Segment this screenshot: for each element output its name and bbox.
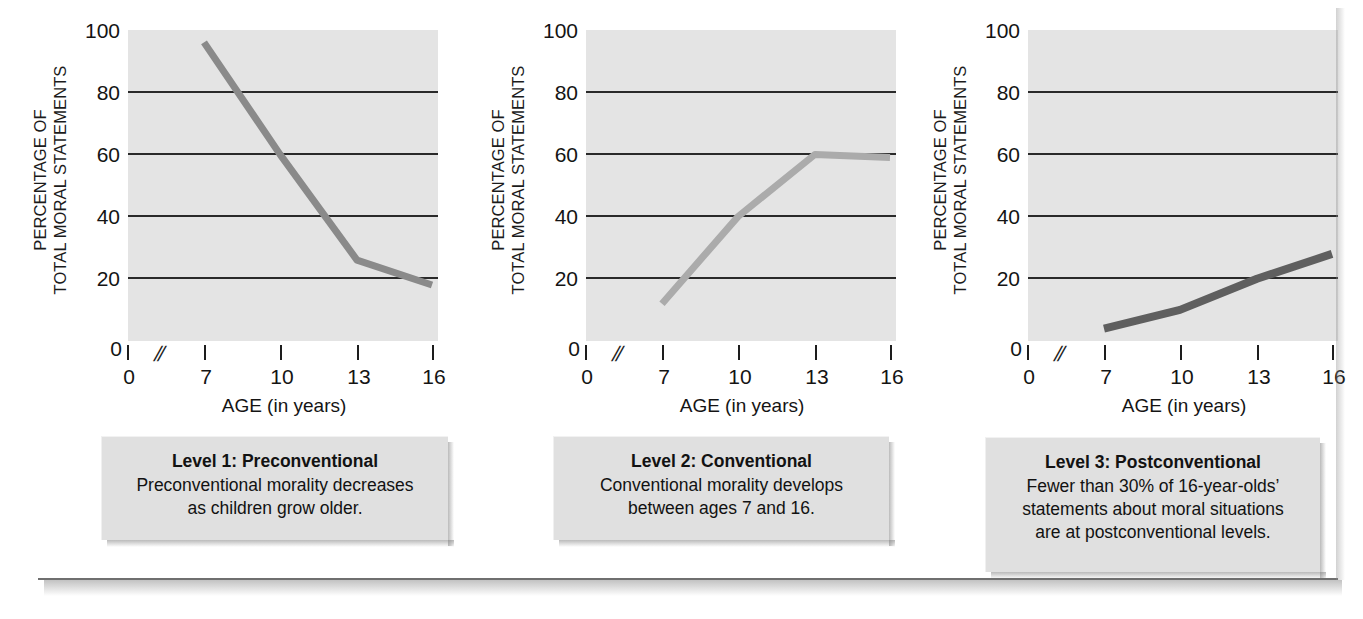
caption-title: Level 2: Conventional: [564, 450, 879, 473]
y-tick-label: 100: [518, 20, 578, 41]
y-tick-label: 80: [518, 82, 578, 103]
x-tick-label: 10: [717, 365, 763, 389]
y-tick-label: 20: [60, 268, 120, 289]
caption-shadow: [559, 540, 895, 547]
figure-root: PERCENTAGE OF TOTAL MORAL STATEMENTS 100…: [0, 0, 1363, 619]
plot-area: [128, 30, 438, 341]
plot-area: [1028, 30, 1338, 341]
axis-break-icon: //: [610, 342, 625, 366]
caption-shadow: [448, 442, 454, 546]
y-tick-label: 80: [60, 82, 120, 103]
caption-shadow: [889, 442, 895, 546]
x-axis: 0 // 0 7 10 13 16: [900, 341, 1360, 401]
y-axis-zero-label: 0: [98, 337, 122, 361]
caption-body: Preconventional morality decreases as ch…: [112, 474, 438, 520]
caption-body: Fewer than 30% of 16-year-olds’ statemen…: [996, 475, 1310, 544]
x-tick-label: 0: [564, 365, 610, 389]
x-tick-label: 13: [336, 365, 382, 389]
y-tick-label: 40: [60, 206, 120, 227]
caption-box-level-3: Level 3: Postconventional Fewer than 30%…: [985, 437, 1320, 572]
axis-break-icon: //: [1052, 342, 1067, 366]
x-tick-label: 10: [259, 365, 305, 389]
caption-box-level-1: Level 1: Preconventional Preconventional…: [101, 436, 448, 540]
x-tick-label: 0: [106, 365, 152, 389]
plot-area: [586, 30, 896, 341]
y-tick-label: 100: [960, 20, 1020, 41]
series-line-level-2: [586, 30, 896, 341]
series-line-level-3: [1028, 30, 1338, 341]
caption-shadow: [107, 540, 454, 547]
x-tick-label: 13: [1236, 365, 1282, 389]
x-axis: 0 // 0 7 10 13 16: [0, 341, 460, 401]
y-tick-label: 60: [60, 144, 120, 165]
x-tick-label: 16: [411, 365, 457, 389]
x-tick-label: 7: [183, 365, 229, 389]
y-tick-label: 80: [960, 82, 1020, 103]
x-axis-title: AGE (in years): [586, 395, 898, 417]
y-axis-zero-label: 0: [998, 337, 1022, 361]
y-axis-zero-label: 0: [556, 337, 580, 361]
caption-body: Conventional morality develops between a…: [564, 474, 879, 520]
x-axis-title: AGE (in years): [128, 395, 440, 417]
y-tick-label: 20: [518, 268, 578, 289]
y-tick-label: 40: [518, 206, 578, 227]
figure-right-shadow: [1336, 8, 1345, 580]
x-axis-title: AGE (in years): [1028, 395, 1340, 417]
caption-box-level-2: Level 2: Conventional Conventional moral…: [553, 436, 889, 540]
y-tick-labels: 100 80 60 40 20: [516, 0, 578, 360]
x-axis: 0 // 0 7 10 13 16: [458, 341, 918, 401]
x-tick-label: 10: [1159, 365, 1205, 389]
y-tick-label: 20: [960, 268, 1020, 289]
caption-title: Level 3: Postconventional: [996, 451, 1310, 474]
y-tick-label: 60: [960, 144, 1020, 165]
series-line-level-1: [128, 30, 438, 341]
x-tick-label: 13: [794, 365, 840, 389]
x-tick-label: 7: [1083, 365, 1129, 389]
y-tick-label: 100: [60, 20, 120, 41]
x-tick-label: 16: [1311, 365, 1357, 389]
x-tick-label: 0: [1006, 365, 1052, 389]
y-tick-label: 60: [518, 144, 578, 165]
caption-title: Level 1: Preconventional: [112, 450, 438, 473]
y-tick-labels: 100 80 60 40 20: [58, 0, 120, 360]
axis-break-icon: //: [152, 342, 167, 366]
x-tick-label: 7: [641, 365, 687, 389]
y-tick-label: 40: [960, 206, 1020, 227]
y-tick-labels: 100 80 60 40 20: [958, 0, 1020, 360]
caption-shadow: [1320, 443, 1326, 578]
figure-bottom-shadow: [44, 580, 1342, 596]
